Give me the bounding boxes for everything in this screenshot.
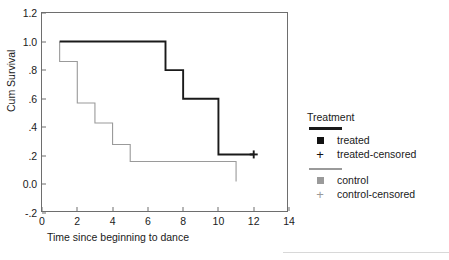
y-tick-label-0.4: .4 <box>28 122 37 133</box>
legend: Treatment treated + treated-censored con… <box>307 111 447 201</box>
treated-series <box>60 42 258 159</box>
treated-censored-markers <box>250 150 258 158</box>
survival-chart-figure: Cum Survival 1.2 1.0 .8 .6 .4 .2 0.0 -.2… <box>0 0 449 260</box>
legend-row-control-censored: + control-censored <box>307 187 447 201</box>
plot-area: 1.2 1.0 .8 .6 .4 .2 0.0 -.2 0 2 4 6 8 10… <box>41 12 288 212</box>
y-tick-label-0.6: .6 <box>28 93 37 104</box>
y-tick-label-1.0: 1.0 <box>23 36 37 47</box>
x-tick-label-10: 10 <box>213 216 225 227</box>
treated-step-line <box>60 42 254 155</box>
y-tick-label-0.0: 0.0 <box>23 179 37 190</box>
x-tick-label-2: 2 <box>74 216 80 227</box>
x-tick-label-12: 12 <box>248 216 260 227</box>
filled-square-icon <box>307 175 333 186</box>
control-series <box>60 42 236 182</box>
legend-label-treated-censored: treated-censored <box>333 148 416 160</box>
control-step-line <box>60 42 236 182</box>
legend-label-control: control <box>333 174 369 186</box>
x-tick-label-14: 14 <box>283 216 295 227</box>
x-axis-label: Time since beginning to dance <box>47 231 189 243</box>
legend-rule-treated <box>309 127 342 130</box>
y-tick-label-1.2: 1.2 <box>23 8 37 19</box>
x-tick-label-0: 0 <box>39 216 45 227</box>
x-tick-label-8: 8 <box>180 216 186 227</box>
x-tick-label-6: 6 <box>145 216 151 227</box>
filled-square-icon <box>307 135 333 146</box>
y-tick-label-0.8: .8 <box>28 65 37 76</box>
y-tick-label-0.2: .2 <box>28 151 37 162</box>
legend-rule-control <box>309 168 342 170</box>
footer-divider <box>283 252 449 253</box>
legend-label-treated: treated <box>333 134 370 146</box>
y-tick-label-neg0.2: -.2 <box>25 208 37 219</box>
y-axis-label: Cum Survival <box>5 50 17 112</box>
legend-row-treated-censored: + treated-censored <box>307 147 447 161</box>
plus-icon: + <box>307 188 333 201</box>
x-tick-label-4: 4 <box>110 216 116 227</box>
legend-label-control-censored: control-censored <box>333 188 415 200</box>
plus-icon: + <box>307 148 333 161</box>
legend-row-treated: treated <box>307 133 447 147</box>
legend-title: Treatment <box>307 111 447 123</box>
survival-curves <box>42 13 289 213</box>
legend-row-control: control <box>307 173 447 187</box>
